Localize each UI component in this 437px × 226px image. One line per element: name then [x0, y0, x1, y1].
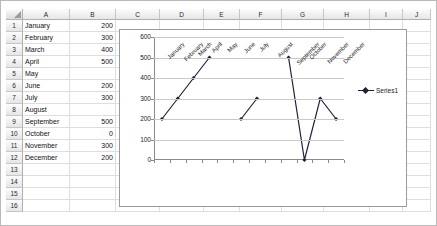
x-axis-tick	[217, 160, 218, 163]
cell-B13[interactable]	[70, 164, 116, 176]
cell-B4[interactable]: 500	[70, 56, 116, 68]
column-header-C[interactable]: C	[116, 9, 160, 20]
cell-J6[interactable]	[403, 80, 431, 92]
x-axis-tick	[170, 160, 171, 163]
cell-A5[interactable]: May	[23, 68, 70, 80]
cell-B12[interactable]: 200	[70, 152, 116, 164]
cell-A16[interactable]	[23, 200, 70, 212]
row-header-1[interactable]: 1	[6, 20, 23, 32]
cell-B11[interactable]: 300	[70, 140, 116, 152]
cell-A2[interactable]: February	[23, 32, 70, 44]
cell-A8[interactable]: August	[23, 104, 70, 116]
cell-A3[interactable]: March	[23, 44, 70, 56]
cell-J4[interactable]	[403, 56, 431, 68]
row-header-8[interactable]: 8	[6, 104, 23, 116]
cell-B2[interactable]: 300	[70, 32, 116, 44]
y-axis-tick	[151, 37, 154, 38]
column-header-B[interactable]: B	[70, 9, 116, 20]
column-header-H[interactable]: H	[324, 9, 370, 20]
cell-A6[interactable]: June	[23, 80, 70, 92]
cell-B7[interactable]: 300	[70, 92, 116, 104]
column-header-A[interactable]: A	[23, 9, 70, 20]
row-header-4[interactable]: 4	[6, 56, 23, 68]
cell-J16[interactable]	[403, 200, 431, 212]
x-axis-tick	[154, 160, 155, 163]
cell-J3[interactable]	[403, 44, 431, 56]
cell-A9[interactable]: September	[23, 116, 70, 128]
column-header-D[interactable]: D	[160, 9, 204, 20]
cell-B10[interactable]: 0	[70, 128, 116, 140]
cell-J14[interactable]	[403, 176, 431, 188]
gridline	[154, 140, 344, 141]
y-axis-tick-label: 600	[140, 34, 151, 41]
y-axis-tick	[151, 140, 154, 141]
cell-B5[interactable]	[70, 68, 116, 80]
cell-J10[interactable]	[403, 128, 431, 140]
cell-A13[interactable]	[23, 164, 70, 176]
cell-B6[interactable]: 200	[70, 80, 116, 92]
cell-B3[interactable]: 400	[70, 44, 116, 56]
cell-B1[interactable]: 200	[70, 20, 116, 32]
cell-A7[interactable]: July	[23, 92, 70, 104]
gridline	[154, 119, 344, 120]
cell-J9[interactable]	[403, 116, 431, 128]
legend-label: Series1	[376, 87, 398, 94]
cell-A11[interactable]: November	[23, 140, 70, 152]
chart-plot-area: 0100200300400500600JanuaryFebruaryMarchA…	[154, 37, 344, 160]
cell-J15[interactable]	[403, 188, 431, 200]
cell-J1[interactable]	[403, 20, 431, 32]
x-axis-tick	[233, 160, 234, 163]
legend-marker-icon	[362, 86, 369, 93]
y-axis-tick	[151, 58, 154, 59]
column-header-I[interactable]: I	[370, 9, 403, 20]
row-header-10[interactable]: 10	[6, 128, 23, 140]
cell-A1[interactable]: January	[23, 20, 70, 32]
cell-A14[interactable]	[23, 176, 70, 188]
row-header-7[interactable]: 7	[6, 92, 23, 104]
row-header-5[interactable]: 5	[6, 68, 23, 80]
x-axis-tick	[312, 160, 313, 163]
row-header-11[interactable]: 11	[6, 140, 23, 152]
y-axis-tick-label: 100	[140, 136, 151, 143]
column-header-G[interactable]: G	[282, 9, 324, 20]
column-header-J[interactable]: J	[403, 9, 431, 20]
gridline	[154, 78, 344, 79]
data-point-marker	[302, 158, 306, 162]
row-header-13[interactable]: 13	[6, 164, 23, 176]
column-header-F[interactable]: F	[240, 9, 282, 20]
x-axis-tick	[249, 160, 250, 163]
cell-B9[interactable]: 500	[70, 116, 116, 128]
cell-J2[interactable]	[403, 32, 431, 44]
row-header-12[interactable]: 12	[6, 152, 23, 164]
row-header-16[interactable]: 16	[6, 200, 23, 212]
column-header-E[interactable]: E	[204, 9, 240, 20]
x-axis-tick	[265, 160, 266, 163]
row-header-9[interactable]: 9	[6, 116, 23, 128]
cell-J12[interactable]	[403, 152, 431, 164]
cell-J13[interactable]	[403, 164, 431, 176]
cell-J11[interactable]	[403, 140, 431, 152]
cell-J5[interactable]	[403, 68, 431, 80]
cell-A15[interactable]	[23, 188, 70, 200]
cell-B8[interactable]	[70, 104, 116, 116]
cell-A4[interactable]: April	[23, 56, 70, 68]
row-header-14[interactable]: 14	[6, 176, 23, 188]
y-axis-tick-label: 500	[140, 54, 151, 61]
legend-line-icon	[358, 90, 374, 91]
line-chart[interactable]: 0100200300400500600JanuaryFebruaryMarchA…	[119, 29, 407, 207]
cell-B14[interactable]	[70, 176, 116, 188]
row-header-2[interactable]: 2	[6, 32, 23, 44]
cell-B15[interactable]	[70, 188, 116, 200]
row-header-3[interactable]: 3	[6, 44, 23, 56]
x-axis-tick	[186, 160, 187, 163]
row-header-15[interactable]: 15	[6, 188, 23, 200]
row-header-6[interactable]: 6	[6, 80, 23, 92]
x-axis-tick	[202, 160, 203, 163]
chart-legend[interactable]: Series1	[358, 87, 398, 94]
cell-J8[interactable]	[403, 104, 431, 116]
x-axis-tick	[344, 160, 345, 163]
cell-A12[interactable]: December	[23, 152, 70, 164]
cell-A10[interactable]: October	[23, 128, 70, 140]
cell-B16[interactable]	[70, 200, 116, 212]
cell-J7[interactable]	[403, 92, 431, 104]
